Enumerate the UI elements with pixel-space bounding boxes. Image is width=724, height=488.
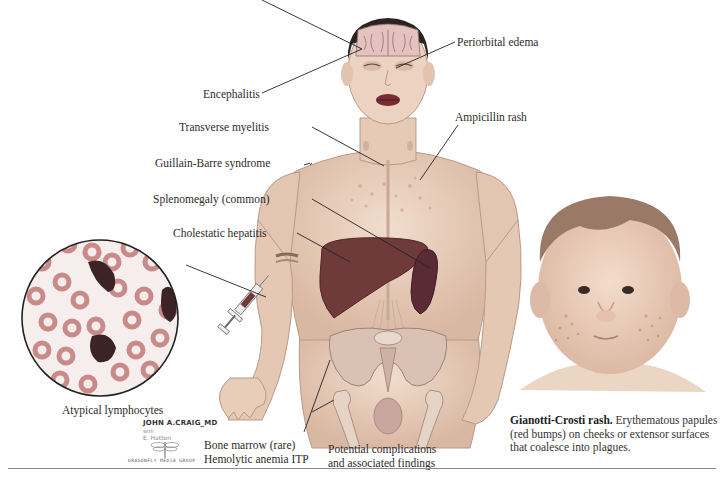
caption-line1: Erythematous papules [613,414,718,426]
blood-smear-magnification [22,237,178,396]
label-guillain-barre: Guillain-Barre syndrome [155,157,270,170]
gianotti-crosti-caption: Gianotti-Crosti rash. Erythematous papul… [510,414,724,455]
bottom-divider [8,468,716,469]
label-transverse-myelitis: Transverse myelitis [179,121,269,134]
caption-line3: that coalesce into plagues. [510,441,724,455]
label-cholestatic-hepatitis: Cholestatic hepatitis [173,227,267,240]
caption-line2: (red bumps) on cheeks or extensor surfac… [510,428,724,442]
label-splenomegaly: Splenomegaly (common) [153,193,270,206]
label-atypical-lymphocytes: Atypical lymphocytes [62,404,163,417]
label-hemolytic-anemia: Hemolytic anemia ITP [204,453,309,466]
dragonfly-logo-icon [150,440,180,458]
publisher-credit: DRAGONFLY MEDIA GROUP [128,458,195,463]
artist-signature: JOHN A.CRAIG_MD [143,419,218,427]
label-bone-marrow: Bone marrow (rare) [204,439,295,452]
label-encephalitis: Encephalitis [203,88,260,101]
label-ampicillin-rash: Ampicillin rash [455,111,527,124]
caption-heading: Gianotti-Crosti rash. [510,414,613,426]
label-periorbital-edema: Periorbital edema [457,36,538,49]
figure-title-line1: Potential complications [328,443,436,456]
infant-portrait [520,196,706,392]
